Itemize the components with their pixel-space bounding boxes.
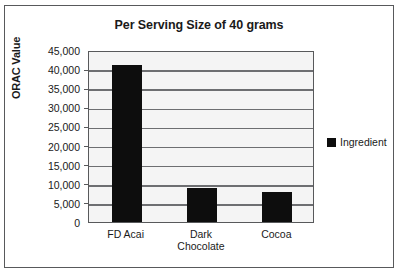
y-axis-tick-label: 30,000 <box>22 102 80 114</box>
y-axis-tick-label: 15,000 <box>22 160 80 172</box>
x-axis-category-label-line: Chocolate <box>163 240 238 252</box>
x-axis-category-label-line: FD Acai <box>88 228 163 240</box>
x-axis-category-label-line: Dark <box>163 228 238 240</box>
y-axis-title: ORAC Value <box>10 0 22 143</box>
legend-color-swatch <box>327 138 336 147</box>
y-axis-tick-label: 25,000 <box>22 121 80 133</box>
y-axis-tick-label: 0 <box>22 217 80 229</box>
bar <box>112 65 142 222</box>
bar <box>262 192 292 222</box>
y-axis-tick-label: 10,000 <box>22 179 80 191</box>
y-axis-tick-label: 5,000 <box>22 198 80 210</box>
bar <box>187 188 217 222</box>
x-axis-category-label: FD Acai <box>88 228 163 240</box>
y-axis-tick-label: 35,000 <box>22 83 80 95</box>
x-axis-category-label: DarkChocolate <box>163 228 238 252</box>
legend-label: Ingredient <box>340 136 387 148</box>
x-axis-category-label-line: Cocoa <box>239 228 314 240</box>
y-axis-tick-label: 20,000 <box>22 141 80 153</box>
chart-title: Per Serving Size of 40 grams <box>5 18 393 32</box>
y-axis-tick-label: 40,000 <box>22 64 80 76</box>
plot-area <box>88 51 314 223</box>
y-axis-tick-label: 45,000 <box>22 45 80 57</box>
x-axis-category-label: Cocoa <box>239 228 314 240</box>
legend: Ingredient <box>327 136 387 148</box>
chart-frame: Per Serving Size of 40 grams ORAC Value … <box>4 5 394 268</box>
